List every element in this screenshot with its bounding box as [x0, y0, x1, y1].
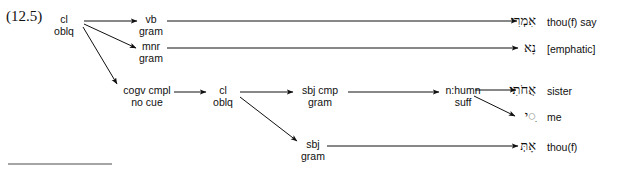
node-cogv-line1: cogv cmpl — [118, 85, 176, 97]
node-nhumn-line1: n:humn — [440, 85, 486, 97]
node-root-line2: oblq — [44, 26, 84, 38]
output-gloss-ahoti: sister — [547, 85, 572, 97]
output-hebrew-ahoti: אֲחֹתִי — [490, 82, 536, 98]
node-mnr-line1: mnr — [133, 41, 169, 53]
node-n-humn: n:humn suff — [440, 85, 486, 108]
node-sbj-line1: sbj — [297, 139, 329, 151]
node-cl2-line1: cl — [205, 85, 241, 97]
edge-cl2-to-sbj — [240, 97, 297, 141]
output-gloss-at: thou(f) — [547, 141, 577, 153]
figure-canvas: (12.5) — [0, 0, 626, 177]
output-gloss-na: [emphatic] — [547, 43, 595, 55]
node-mnr-line2: gram — [133, 53, 169, 65]
node-cogv-cmpl: cogv cmpl no cue — [118, 85, 176, 108]
node-cl2-line2: oblq — [205, 97, 241, 109]
node-mnr: mnr gram — [133, 41, 169, 64]
output-hebrew-imri: אִמְרִי — [490, 13, 536, 29]
output-gloss-imri: thou(f) say — [547, 16, 597, 28]
node-cl-oblq-2: cl oblq — [205, 85, 241, 108]
output-hebrew-na: נָא — [490, 40, 536, 56]
node-nhumn-line2: suff — [440, 97, 486, 109]
node-sbj-cmp: sbj cmp gram — [294, 85, 346, 108]
node-sbjcmp-line2: gram — [294, 97, 346, 109]
node-vb: vb gram — [133, 14, 169, 37]
node-vb-line1: vb — [133, 14, 169, 26]
node-cogv-line2: no cue — [118, 97, 176, 109]
node-sbj: sbj gram — [297, 139, 329, 162]
output-gloss-me: me — [547, 111, 562, 123]
edge-root-to-mnr — [84, 24, 136, 48]
edge-root-to-cogv — [83, 27, 117, 84]
node-root: cl oblq — [44, 14, 84, 37]
output-hebrew-at: אָתְּ — [490, 138, 536, 154]
output-hebrew-suffix-i: ִ◌י — [490, 108, 536, 124]
node-sbjcmp-line1: sbj cmp — [294, 85, 346, 97]
node-root-line1: cl — [44, 14, 84, 26]
node-vb-line2: gram — [133, 26, 169, 38]
node-sbj-line2: gram — [297, 151, 329, 163]
